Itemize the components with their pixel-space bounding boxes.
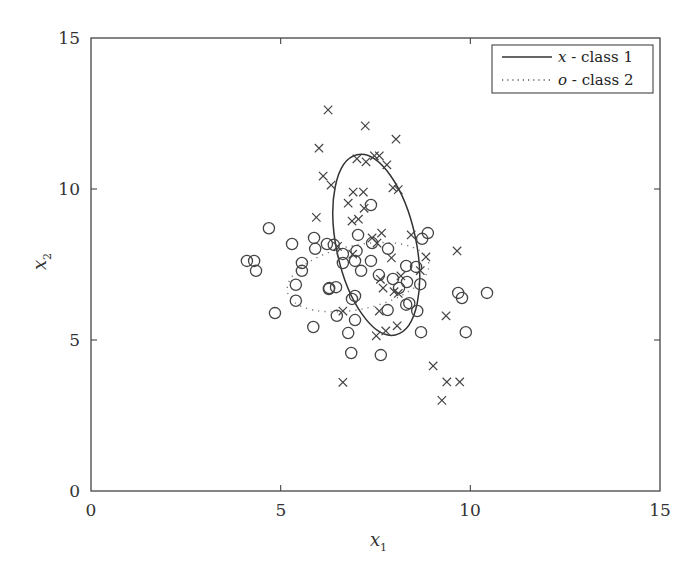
class-1-x-marker bbox=[361, 122, 369, 130]
class-2-o-marker bbox=[346, 347, 357, 358]
class-2-o-marker bbox=[352, 229, 363, 240]
class-1-x-marker bbox=[392, 135, 400, 143]
class-2-o-marker bbox=[310, 243, 321, 254]
y-axis-label-main: x bbox=[29, 260, 50, 270]
class-1-x-marker bbox=[383, 161, 391, 169]
class-1-x-marker bbox=[377, 229, 385, 237]
class-1-x-marker bbox=[315, 144, 323, 152]
class-2-o-marker bbox=[382, 305, 393, 316]
y-axis-label: x 2 bbox=[29, 253, 54, 270]
class-2-o-marker bbox=[269, 308, 280, 319]
class-2-o-marker bbox=[290, 295, 301, 306]
class-2-o-marker bbox=[324, 282, 335, 293]
class-2-o-marker bbox=[296, 265, 307, 276]
legend: x - class 1 o - class 2 bbox=[492, 45, 653, 93]
class-2-o-marker bbox=[249, 255, 260, 266]
class-1-x-marker bbox=[319, 172, 327, 180]
class-1-x-marker bbox=[453, 247, 461, 255]
x-tick-label-10: 10 bbox=[459, 500, 481, 520]
class-1-x-marker bbox=[429, 362, 437, 370]
y-tick-label-15: 15 bbox=[58, 28, 80, 48]
class-2-o-marker bbox=[250, 265, 261, 276]
class-1-x-marker bbox=[339, 378, 347, 386]
class-1-x-marker bbox=[312, 213, 320, 221]
x-tick-label-15: 15 bbox=[649, 500, 671, 520]
class-2-o-marker bbox=[308, 232, 319, 243]
x-axis-label: x 1 bbox=[370, 529, 387, 554]
class-1-x-marker bbox=[443, 378, 451, 386]
x-tick-label-5: 5 bbox=[276, 500, 287, 520]
class-1-x-marker bbox=[393, 322, 401, 330]
class-1-x-marker bbox=[379, 284, 387, 292]
x-axis-label-sub: 1 bbox=[380, 541, 387, 554]
y-tick-label-10: 10 bbox=[58, 179, 80, 199]
legend-entry-class-1: x - class 1 bbox=[558, 48, 633, 66]
class-1-x-marker bbox=[353, 155, 361, 163]
class-2-o-marker bbox=[412, 305, 423, 316]
class-2-o-marker bbox=[373, 269, 384, 280]
class-2-o-marker bbox=[355, 265, 366, 276]
class-2-o-marker bbox=[308, 321, 319, 332]
class-2-o-marker bbox=[481, 287, 492, 298]
class-2-o-marker bbox=[290, 279, 301, 290]
class-2-o-marker bbox=[365, 255, 376, 266]
scatter-chart: 0 5 10 15 0 5 10 15 x 1 x 2 x - class 1 … bbox=[0, 0, 698, 577]
class-1-x-marker bbox=[359, 188, 367, 196]
class-2-o-marker bbox=[343, 327, 354, 338]
class-2-o-marker bbox=[366, 237, 377, 248]
class-2-o-marker bbox=[328, 239, 339, 250]
class-2-o-marker bbox=[346, 293, 357, 304]
y-tick-label-0: 0 bbox=[69, 481, 80, 501]
y-tick-label-5: 5 bbox=[69, 330, 80, 350]
legend-label-class-2: - class 2 bbox=[567, 71, 633, 89]
class-1-x-marker bbox=[324, 106, 332, 114]
class-1-x-marker bbox=[348, 217, 356, 225]
class-1-x-marker bbox=[456, 378, 464, 386]
class-2-o-marker bbox=[382, 243, 393, 254]
class-1-x-marker bbox=[344, 199, 352, 207]
legend-symbol-o: o bbox=[558, 71, 567, 89]
class-1-x-marker bbox=[362, 158, 370, 166]
class-2-o-marker bbox=[401, 276, 412, 287]
class-2-o-marker bbox=[415, 327, 426, 338]
class-2-o-marker bbox=[263, 223, 274, 234]
class-2-o-marker bbox=[375, 350, 386, 361]
x-axis-label-main: x bbox=[370, 529, 380, 550]
class-1-x-marker bbox=[375, 152, 383, 160]
class-1-x-marker bbox=[372, 332, 380, 340]
class-2-o-marker bbox=[460, 327, 471, 338]
class-1-x-marker bbox=[422, 253, 430, 261]
class-1-x-marker bbox=[354, 215, 362, 223]
legend-label-class-1: - class 1 bbox=[566, 48, 632, 66]
class-1-x-marker bbox=[438, 396, 446, 404]
y-axis-label-sub: 2 bbox=[41, 253, 54, 260]
legend-entry-class-2: o - class 2 bbox=[558, 71, 633, 89]
class-1-x-marker bbox=[327, 181, 335, 189]
x-tick-label-0: 0 bbox=[86, 500, 97, 520]
class-1-x-marker bbox=[349, 188, 357, 196]
class-2-o-marker bbox=[286, 238, 297, 249]
class-1-x-marker bbox=[442, 312, 450, 320]
class-2-o-marker bbox=[349, 314, 360, 325]
data-points bbox=[241, 106, 492, 405]
